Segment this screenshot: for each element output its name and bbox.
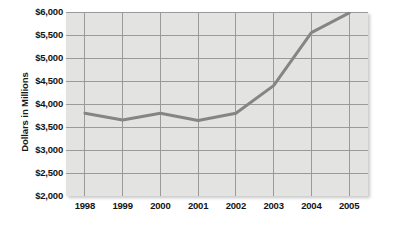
- chart-figure: Dollars in Millions $6,000$5,500$5,000$4…: [0, 0, 394, 228]
- y-tick-label: $2,500: [16, 168, 63, 178]
- x-axis-tick-labels: 19981999200020012002200320042005: [66, 200, 368, 216]
- y-axis-tick-labels: $6,000$5,500$5,000$4,500$4,000$3,500$3,0…: [16, 12, 63, 196]
- y-tick-label: $3,000: [16, 145, 63, 155]
- y-tick-label: $5,500: [16, 30, 63, 40]
- horizontal-gridlines: [66, 12, 368, 196]
- x-tick-label: 2005: [327, 200, 371, 211]
- y-tick-label: $2,000: [16, 191, 63, 201]
- y-tick-label: $3,500: [16, 122, 63, 132]
- plot-svg: [66, 12, 368, 196]
- y-tick-label: $5,000: [16, 53, 63, 63]
- plot-area: [66, 12, 368, 196]
- y-tick-label: $4,500: [16, 76, 63, 86]
- y-tick-label: $6,000: [16, 7, 63, 17]
- y-tick-label: $4,000: [16, 99, 63, 109]
